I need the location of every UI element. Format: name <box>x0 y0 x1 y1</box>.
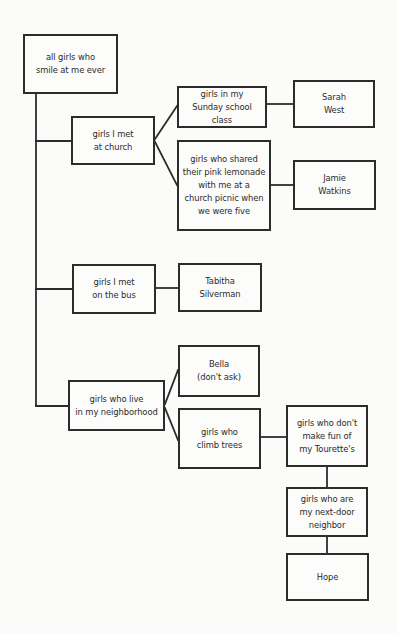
tree-diagram: all girls who smile at me ever girls I m… <box>0 0 397 634</box>
node-label: girls who don't make fun of my Tourette'… <box>297 417 357 456</box>
neighborhood-to-climb-trees-line <box>165 408 178 440</box>
node-girls-who-climb-trees: girls who climb trees <box>178 408 261 469</box>
node-label: Tabitha Silverman <box>199 275 240 301</box>
node-label: girls I met at church <box>92 128 133 154</box>
node-girls-met-on-bus: girls I met on the bus <box>72 264 156 314</box>
church-to-pink-lemonade-line <box>155 142 177 185</box>
church-to-sunday-school-line <box>155 106 177 139</box>
node-tabitha-silverman: Tabitha Silverman <box>178 263 262 312</box>
node-label: girls who shared their pink lemonade wit… <box>183 153 265 218</box>
node-label: all girls who smile at me ever <box>36 51 105 77</box>
node-label: girls in my Sunday school class <box>182 88 262 127</box>
node-no-tourettes-teasing: girls who don't make fun of my Tourette'… <box>286 405 368 467</box>
node-label: girls I met on the bus <box>92 276 136 302</box>
node-pink-lemonade-picnic: girls who shared their pink lemonade wit… <box>177 140 271 231</box>
node-girls-in-neighborhood: girls who live in my neighborhood <box>68 380 165 431</box>
node-label: Bella (don't ask) <box>197 358 241 384</box>
node-label: Jamie Watkins <box>318 172 350 198</box>
node-sunday-school-class: girls in my Sunday school class <box>177 86 267 128</box>
node-label: girls who live in my neighborhood <box>75 393 157 419</box>
node-jamie-watkins: Jamie Watkins <box>293 160 376 210</box>
node-sarah-west: Sarah West <box>293 80 375 128</box>
node-hope: Hope <box>286 553 369 601</box>
node-label: girls who are my next-door neighbor <box>299 493 354 532</box>
node-label: Hope <box>317 571 339 584</box>
node-girls-met-at-church: girls I met at church <box>71 116 155 165</box>
node-all-girls-who-smile: all girls who smile at me ever <box>23 34 118 94</box>
node-label: girls who climb trees <box>197 426 243 452</box>
neighborhood-to-bella-line <box>165 370 178 404</box>
node-label: Sarah West <box>322 91 346 117</box>
node-bella: Bella (don't ask) <box>178 345 260 397</box>
node-next-door-neighbor: girls who are my next-door neighbor <box>286 487 368 537</box>
